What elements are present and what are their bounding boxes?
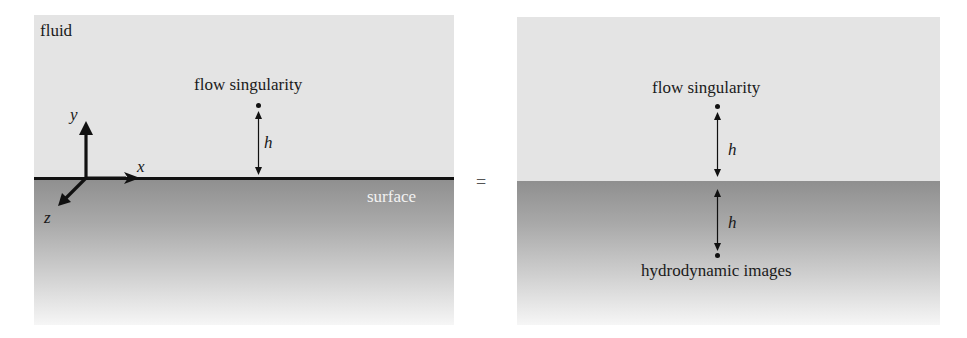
left-panel-physical-setup: fluid flow singularity y x z h surface [34, 15, 454, 325]
z-axis-label: z [44, 209, 51, 226]
hydrodynamic-images-label: hydrodynamic images [641, 262, 792, 279]
y-axis-label: y [70, 106, 78, 123]
coordinate-axes-icon [58, 121, 140, 206]
equals-sign: = [476, 172, 486, 193]
x-axis-label: x [137, 158, 145, 175]
lower-distance-h-label: h [728, 214, 737, 231]
upper-distance-h-label: h [728, 141, 737, 158]
right-panel-image-system: flow singularity h h hydrodynamic images [517, 17, 940, 325]
hydrodynamic-image-point [715, 253, 720, 258]
distance-h-label: h [264, 134, 273, 151]
upper-distance-arrow-icon [714, 112, 721, 177]
annotation-arrows [34, 15, 454, 325]
distance-arrow-icon [255, 111, 262, 175]
lower-distance-arrow-icon [714, 189, 721, 251]
surface-label: surface [367, 188, 416, 205]
